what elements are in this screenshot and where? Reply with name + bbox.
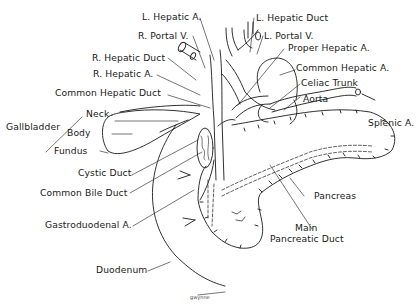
label-duodenum: Duodenum [96,265,147,275]
label-right-portal-vein: R. Portal V. [138,31,188,41]
label-main-pancreatic-duct-line1: Main [295,223,317,233]
label-neck: Neck [86,109,109,119]
gallbladder-outline [102,105,200,153]
bile-duct-section [197,128,213,168]
artist-signature: gwynne [190,294,210,300]
label-celiac-trunk: Celiac Trunk [301,78,358,88]
anatomy-diagram: L. Hepatic A. R. Portal V. R. Hepatic Du… [0,0,420,307]
label-right-hepatic-duct: R. Hepatic Duct [92,53,165,63]
label-common-bile-duct: Common Bile Duct [40,188,127,198]
hepatic-vessels [177,22,275,180]
leader-lines [46,18,312,295]
label-main-pancreatic-duct-line2: Pancreatic Duct [270,234,344,244]
label-splenic-artery: Splenic A. [368,118,414,128]
label-aorta: Aorta [303,94,328,104]
label-gallbladder: Gallbladder [6,122,60,132]
label-right-hepatic-artery: R. Hepatic A. [93,69,153,79]
label-common-hepatic-duct: Common Hepatic Duct [55,88,161,98]
label-gastroduodenal-artery: Gastroduodenal A. [45,220,132,230]
label-pancreas: Pancreas [314,191,356,201]
label-fundus: Fundus [54,146,87,156]
label-left-portal-vein: L. Portal V. [264,31,314,41]
label-body: Body [67,128,91,138]
gastroduodenal-artery [178,160,214,226]
label-proper-hepatic-artery: Proper Hepatic A. [288,43,370,53]
label-left-hepatic-duct: L. Hepatic Duct [256,13,328,23]
label-common-hepatic-artery: Common Hepatic A. [296,63,389,73]
label-left-hepatic-artery: L. Hepatic A. [142,12,201,22]
label-cystic-duct: Cystic Duct [78,168,131,178]
